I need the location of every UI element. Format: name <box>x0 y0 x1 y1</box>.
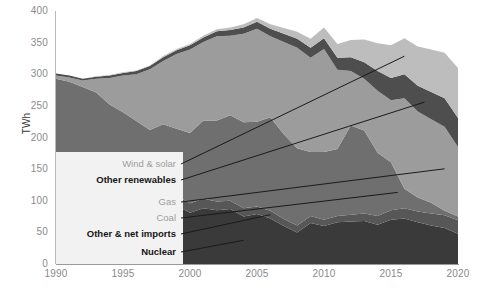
y-tick-150: 150 <box>12 163 48 174</box>
y-tick-300: 300 <box>12 68 48 79</box>
x-tick-2015: 2015 <box>369 268 413 279</box>
chart-root: TWh 050100150200250300350400 19901995200… <box>0 0 484 292</box>
x-tick-1995: 1995 <box>101 268 145 279</box>
x-tick-2020: 2020 <box>436 268 480 279</box>
legend-item-other-renewables: Other renewables <box>96 174 176 185</box>
legend-item-coal: Coal <box>156 212 176 223</box>
y-tick-250: 250 <box>12 100 48 111</box>
x-tick-2005: 2005 <box>235 268 279 279</box>
x-tick-2000: 2000 <box>168 268 212 279</box>
legend-box: Wind & solarOther renewablesGasCoalOther… <box>56 152 183 264</box>
y-tick-400: 400 <box>12 5 48 16</box>
legend-item-wind-solar: Wind & solar <box>122 158 176 169</box>
y-tick-50: 50 <box>12 226 48 237</box>
x-tick-2010: 2010 <box>302 268 346 279</box>
legend-item-gas: Gas <box>159 196 176 207</box>
x-axis-line <box>56 264 459 265</box>
y-tick-100: 100 <box>12 195 48 206</box>
y-tick-200: 200 <box>12 132 48 143</box>
x-tick-1990: 1990 <box>34 268 78 279</box>
legend-item-other-net-imports: Other & net imports <box>87 228 176 239</box>
y-tick-350: 350 <box>12 37 48 48</box>
legend-item-nuclear: Nuclear <box>141 246 176 257</box>
